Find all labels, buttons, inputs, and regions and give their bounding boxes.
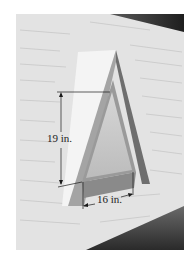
vent-figure: [0, 0, 192, 254]
height-label: 19 in.: [47, 132, 72, 144]
base-label: 16 in.: [97, 193, 122, 205]
